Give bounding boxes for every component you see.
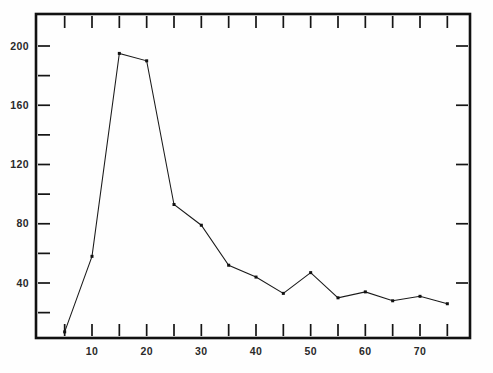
x-tick-label: 70 — [414, 345, 426, 357]
data-point-marker — [200, 224, 203, 227]
x-tick-label: 40 — [250, 345, 262, 357]
data-point-marker — [91, 255, 94, 258]
data-point-marker — [391, 299, 394, 302]
data-point-marker — [145, 59, 148, 62]
series-line-1 — [65, 53, 448, 331]
data-point-marker — [337, 296, 340, 299]
y-axis-tick-labels: 4080120160200 — [10, 40, 29, 289]
x-axis-ticks — [65, 16, 448, 336]
y-tick-label: 80 — [17, 217, 29, 229]
line-chart-svg: 4080120160200 10203040506070 — [0, 0, 493, 373]
data-point-marker — [419, 295, 422, 298]
x-tick-label: 20 — [140, 345, 152, 357]
x-tick-label: 50 — [304, 345, 316, 357]
plot-border — [36, 14, 470, 338]
data-point-marker — [282, 292, 285, 295]
data-point-marker — [63, 330, 66, 333]
data-point-marker — [364, 290, 367, 293]
y-tick-label: 160 — [10, 99, 29, 111]
x-tick-label: 30 — [195, 345, 207, 357]
data-point-marker — [309, 271, 312, 274]
data-point-marker — [173, 203, 176, 206]
data-point-marker — [255, 276, 258, 279]
y-tick-label: 120 — [10, 158, 29, 170]
x-tick-label: 10 — [86, 345, 98, 357]
plot-frame — [36, 14, 470, 338]
chart-figure: 4080120160200 10203040506070 — [0, 0, 493, 373]
y-tick-label: 40 — [17, 277, 29, 289]
data-point-marker — [118, 52, 121, 55]
data-point-markers — [63, 52, 449, 333]
x-axis-tick-labels: 10203040506070 — [86, 345, 426, 357]
x-tick-label: 60 — [359, 345, 371, 357]
data-series-line — [65, 53, 448, 331]
data-point-marker — [446, 302, 449, 305]
y-tick-label: 200 — [10, 40, 29, 52]
data-point-marker — [227, 264, 230, 267]
